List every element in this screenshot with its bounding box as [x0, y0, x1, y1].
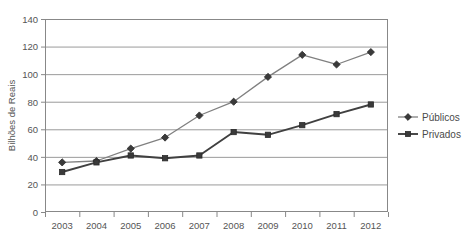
- square-marker-icon: [231, 129, 236, 134]
- series-privados: [60, 102, 374, 175]
- square-marker-icon: [162, 156, 167, 161]
- legend-label: Públicos: [422, 112, 460, 123]
- square-marker-icon: [368, 102, 373, 107]
- y-axis-tick-label: 140: [22, 14, 38, 25]
- y-axis-tick-label: 20: [27, 179, 38, 190]
- x-axis-tick-label: 2009: [257, 220, 278, 231]
- legend: PúblicosPrivados: [398, 112, 461, 140]
- square-marker-icon: [128, 153, 133, 158]
- y-axis-tick-label: 100: [22, 69, 38, 80]
- y-axis-tick-label: 80: [27, 97, 38, 108]
- x-axis-tick-label: 2012: [360, 220, 381, 231]
- x-axis-tick-label: 2011: [326, 220, 346, 231]
- x-axis-tick-label: 2007: [189, 220, 210, 231]
- square-marker-icon: [197, 153, 202, 158]
- x-axis-tick-label: 2004: [86, 220, 107, 231]
- y-axis-tick-label: 120: [22, 41, 38, 52]
- y-axis-title: Bilhões de Reais: [6, 80, 17, 152]
- diamond-marker-icon: [333, 61, 340, 68]
- legend-label: Privados: [422, 129, 461, 140]
- square-marker-icon: [334, 111, 339, 116]
- diamond-marker-icon: [367, 48, 374, 55]
- y-axis-tick-label: 0: [33, 207, 38, 218]
- series-publicos: [59, 48, 375, 165]
- y-axis-tick-label: 40: [27, 152, 38, 163]
- y-axis-tick-label: 60: [27, 124, 38, 135]
- square-marker-icon: [60, 169, 65, 174]
- x-axis-tick-label: 2005: [120, 220, 141, 231]
- x-axis-tick-label: 2008: [223, 220, 244, 231]
- square-marker-icon: [265, 132, 270, 137]
- square-marker-icon: [94, 160, 99, 165]
- line-chart: 0204060801001201402003200420052006200720…: [0, 0, 464, 249]
- diamond-marker-icon: [59, 159, 66, 166]
- diamond-marker-icon: [299, 51, 306, 58]
- diamond-marker-icon: [196, 112, 203, 119]
- chart-canvas: 0204060801001201402003200420052006200720…: [0, 0, 464, 249]
- diamond-marker-icon: [161, 134, 168, 141]
- diamond-marker-icon: [127, 145, 134, 152]
- legend-item[interactable]: Privados: [398, 129, 461, 140]
- x-axis-tick-label: 2003: [52, 220, 73, 231]
- square-marker-icon: [406, 132, 411, 137]
- series-line: [62, 104, 371, 172]
- legend-item[interactable]: Públicos: [398, 112, 460, 123]
- x-axis-tick-label: 2010: [292, 220, 313, 231]
- x-axis-tick-label: 2006: [154, 220, 175, 231]
- square-marker-icon: [300, 123, 305, 128]
- x-axis: 2003200420052006200720082009201020112012: [46, 212, 389, 231]
- series-line: [62, 52, 371, 162]
- diamond-marker-icon: [405, 114, 412, 121]
